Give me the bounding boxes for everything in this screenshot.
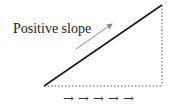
slope-label: Positive slope [13,21,91,36]
right-arrows-row: → → → → → [63,91,134,106]
slope-line [44,5,162,86]
